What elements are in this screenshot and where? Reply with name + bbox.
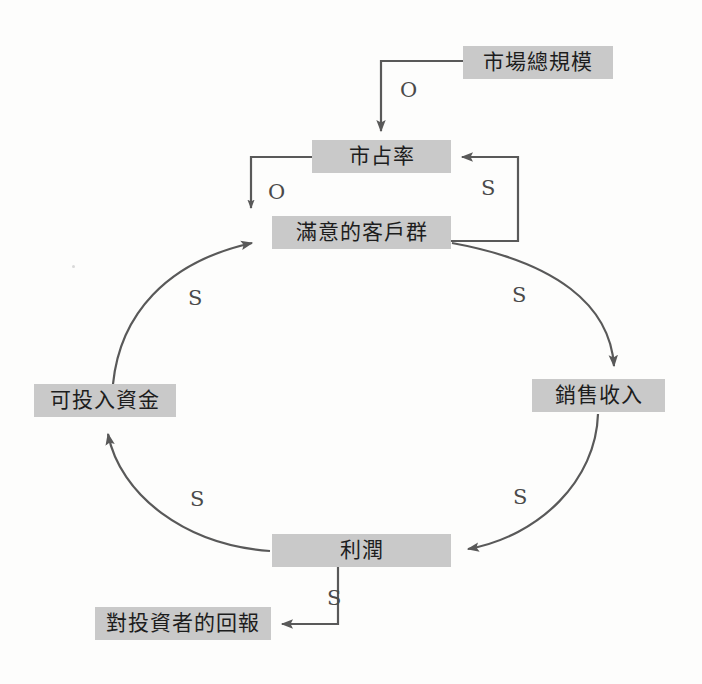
node-market-total-size[interactable]: 市場總規模: [463, 46, 613, 79]
node-profit-label: 利潤: [340, 540, 384, 561]
node-market-share-label: 市占率: [349, 146, 415, 167]
edge-label-revenue-to-profit: S: [513, 487, 527, 508]
edge-profit-to-funds: [108, 434, 270, 551]
node-profit[interactable]: 利潤: [272, 534, 451, 567]
edge-satisfied-to-revenue: [452, 243, 614, 366]
edge-label-funds-to-satisfied: S: [188, 288, 202, 309]
edge-label-share-to-satisfied: O: [268, 182, 285, 203]
edge-label-satisfied-to-revenue: S: [512, 285, 526, 306]
node-return-to-investors-label: 對投資者的回報: [106, 613, 260, 634]
diagram-canvas: [0, 0, 702, 684]
edge-label-market-size-to-share: O: [400, 80, 417, 101]
node-investable-funds-label: 可投入資金: [50, 390, 160, 411]
node-investable-funds[interactable]: 可投入資金: [34, 384, 176, 417]
edge-label-profit-to-funds: S: [190, 489, 204, 510]
edge-label-profit-to-return: S: [327, 588, 341, 609]
node-return-to-investors[interactable]: 對投資者的回報: [95, 607, 271, 640]
node-sales-revenue[interactable]: 銷售收入: [532, 379, 665, 412]
node-satisfied-customers-label: 滿意的客戶群: [296, 222, 428, 243]
node-market-share[interactable]: 市占率: [312, 140, 451, 173]
node-satisfied-customers[interactable]: 滿意的客戶群: [272, 216, 451, 249]
edge-funds-to-satisfied: [113, 243, 252, 384]
edge-label-satisfied-to-share: S: [481, 178, 495, 199]
causal-loop-diagram: 市場總規模 市占率 滿意的客戶群 銷售收入 利潤 可投入資金 對投資者的回報 O…: [0, 0, 702, 684]
edge-market-size-to-share: [381, 61, 463, 131]
node-market-total-size-label: 市場總規模: [483, 52, 593, 73]
page-speck: [72, 265, 75, 268]
node-sales-revenue-label: 銷售收入: [555, 385, 643, 406]
edge-revenue-to-profit: [468, 414, 598, 549]
